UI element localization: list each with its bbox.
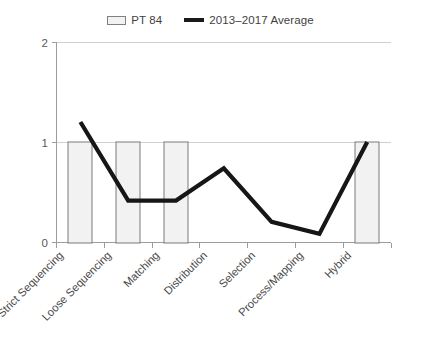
y-tick-label-2: 2 (42, 37, 48, 49)
y-tick-label-1: 1 (42, 137, 48, 149)
x-tick-label-distribution: Distribution (161, 249, 209, 297)
x-tick-labels: Strict Sequencing Loose Sequencing Match… (0, 249, 353, 323)
y-tick-labels: 2 1 0 (42, 37, 48, 249)
bar-strict-sequencing (68, 142, 92, 243)
x-tick-label-hybrid: Hybrid (322, 249, 353, 280)
x-tick-label-matching: Matching (121, 249, 162, 290)
gridlines (56, 43, 391, 143)
chart-container: PT 84 2013–2017 Average 2 1 0 (0, 0, 421, 343)
bar-loose-sequencing (116, 142, 140, 243)
y-tick-marks (52, 43, 56, 243)
bar-series-pt-84 (68, 142, 379, 243)
plot-area: 2 1 0 Strict Sequencing Loose Seq (0, 0, 421, 343)
y-tick-label-0: 0 (42, 237, 48, 249)
x-tick-marks (57, 243, 392, 248)
x-tick-label-selection: Selection (216, 249, 257, 290)
